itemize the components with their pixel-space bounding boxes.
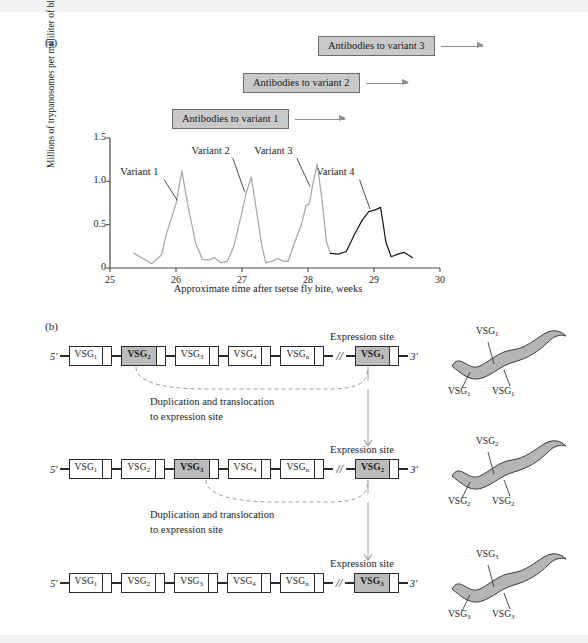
five-prime-label: 5′ <box>48 351 60 362</box>
trypanosome-body <box>452 331 566 379</box>
chart-leader-line-4 <box>359 180 370 209</box>
gene-connector <box>399 355 408 356</box>
chart-series-variant-4 <box>330 207 412 257</box>
gene-vsg-2-row1: VSG2 <box>121 346 165 365</box>
chart-leader-line-1 <box>164 180 177 201</box>
process-line-1: Duplication and translocation <box>150 508 274 523</box>
chromosome-break-icon: // <box>333 350 346 362</box>
gene-vsg-n-row1-tail <box>315 346 324 365</box>
expression-site-gene-row1-box: VSG1 <box>355 346 390 365</box>
three-prime-label: 3′ <box>408 351 420 362</box>
gene-vsg-1-row1-tail <box>103 346 112 365</box>
expression-site-gene-row1: VSG1 <box>355 346 399 365</box>
gene-vsg-1-row1-box: VSG1 <box>69 346 104 365</box>
coat-label-top-1: VSG1 <box>476 326 498 337</box>
gene-vsg-3-row1: VSG3 <box>175 346 219 365</box>
parasitemia-chart: Millions of trypanosomes per milliliter … <box>48 128 448 303</box>
chart-series-variant-2 <box>227 177 288 263</box>
gene-vsg-4-row1-box: VSG4 <box>228 346 263 365</box>
coat-leader-line <box>504 370 510 386</box>
gene-vsg-3-row1-tail <box>210 346 219 365</box>
expression-site-label-row1: Expression site <box>330 331 394 342</box>
chart-leader-line-2 <box>233 158 245 192</box>
chart-plot-area <box>48 128 448 303</box>
trypanosome-body <box>452 441 566 489</box>
gene-vsg-2-row1-tail <box>157 346 166 365</box>
process-annotation-1: Duplication and translocationto expressi… <box>150 395 274 424</box>
coat-label-left-3: VSG3 <box>448 609 470 620</box>
coat-leader-line <box>504 593 510 609</box>
antibody-label-3: Antibodies to variant 1 <box>172 109 289 130</box>
gene-array-row-1: 5′VSG1VSG2VSG3VSG4VSGn//VSG13′ <box>48 345 420 367</box>
antibody-label-2: Antibodies to variant 2 <box>243 73 360 94</box>
gene-vsg-4-row1-tail <box>262 346 271 365</box>
antibody-label-1: Antibodies to variant 3 <box>318 36 435 57</box>
figure-root: (a) Antibodies to variant 3Antibodies to… <box>0 0 588 643</box>
expression-site-stem-3 <box>360 594 380 610</box>
antibody-bar-2: Antibodies to variant 2 <box>243 72 408 94</box>
chart-axis-lines <box>110 138 440 268</box>
gene-vsg-1-row1: VSG1 <box>69 346 113 365</box>
gene-connector <box>60 355 69 356</box>
coat-label-right-1: VSG1 <box>492 386 514 397</box>
gene-connector <box>219 355 228 356</box>
expression-site-gene-row1-tail <box>390 346 399 365</box>
coat-label-top-2: VSG2 <box>476 436 498 447</box>
gene-connector <box>112 355 121 356</box>
gene-vsg-4-row1: VSG4 <box>228 346 272 365</box>
trypanosome-body <box>452 554 566 602</box>
coat-label-top-3: VSG3 <box>476 549 498 560</box>
chart-leader-line-3 <box>297 158 310 187</box>
process-line-2: to expression site <box>150 523 274 538</box>
coat-label-left-2: VSG2 <box>448 496 470 507</box>
antibody-bar-3: Antibodies to variant 1 <box>172 108 345 130</box>
process-annotation-2: Duplication and translocationto expressi… <box>150 508 274 537</box>
page-bottom-band <box>0 635 588 643</box>
expression-site-stem-1 <box>360 367 380 383</box>
gene-connector <box>271 355 280 356</box>
process-line-1: Duplication and translocation <box>150 395 274 410</box>
coat-leader-line <box>504 480 510 496</box>
antibody-bar-1: Antibodies to variant 3 <box>318 35 483 57</box>
gene-connector <box>346 355 355 356</box>
gene-connector <box>324 355 333 356</box>
antibody-arrow-icon-2 <box>366 83 408 84</box>
chart-series-variant-1 <box>134 171 228 264</box>
gene-vsg-n-row1: VSGn <box>280 346 324 365</box>
coat-label-right-3: VSG3 <box>492 609 514 620</box>
page-top-band <box>0 0 588 12</box>
gene-vsg-2-row1-box: VSG2 <box>121 346 156 365</box>
gene-connector <box>166 355 175 356</box>
coat-label-right-2: VSG2 <box>492 496 514 507</box>
panel-b-letter: (b) <box>45 320 58 332</box>
process-line-2: to expression site <box>150 410 274 425</box>
gene-vsg-3-row1-box: VSG3 <box>175 346 210 365</box>
antibody-arrow-icon-3 <box>295 119 345 120</box>
expression-site-stem-2 <box>360 480 380 496</box>
antibody-arrow-icon-1 <box>441 46 483 47</box>
chart-series-variant-3 <box>288 164 330 261</box>
coat-label-left-1: VSG1 <box>448 386 470 397</box>
gene-vsg-n-row1-box: VSGn <box>280 346 315 365</box>
